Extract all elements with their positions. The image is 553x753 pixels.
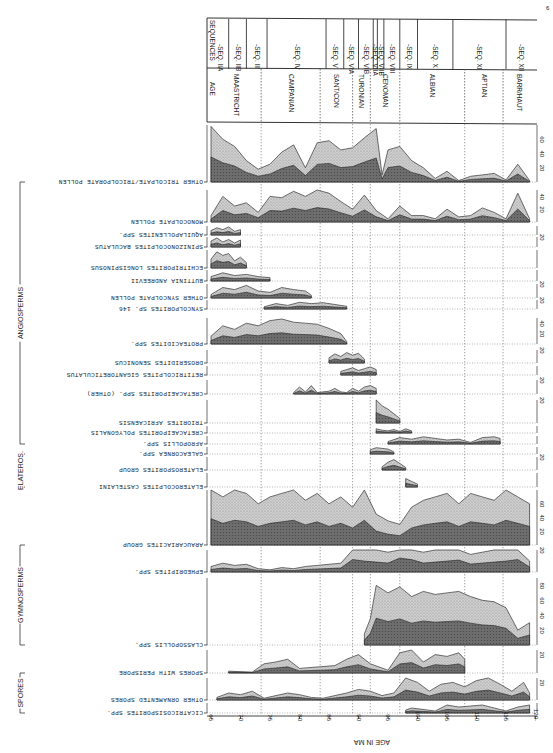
taxon-row <box>207 226 537 235</box>
taxon-label: CRETACAEIPORITES POLYGONALIS <box>91 429 203 436</box>
svg-text:40: 40 <box>539 193 545 200</box>
taxon-label: AFROPOLLIS SPP. <box>143 440 203 447</box>
svg-text:65: 65 <box>208 714 214 721</box>
taxon-row <box>207 447 537 454</box>
sequence-label: -SEQ. V <box>331 44 339 69</box>
taxon-label: CLASSOPOLLIS SPP. <box>135 641 203 648</box>
taxon-row: 2040 <box>207 318 545 344</box>
taxon-label: DROSERIDITES SENONICUS <box>115 359 203 366</box>
svg-text:80: 80 <box>297 714 303 721</box>
taxon-label: RETITRICOLPITES GIGANTORETICULATUS <box>67 371 203 378</box>
age-axis: 65707580859095100105110115120-AGE IN MA <box>207 709 539 746</box>
taxon-row: 20 <box>207 377 545 394</box>
taxon-label: ARAUCARIACITES GROUP <box>123 541 203 548</box>
chart-header: SEQUENCESAGE-SEQ. IIA-SEQ. IIB-SEQ. III-… <box>207 18 537 124</box>
svg-text:75: 75 <box>267 714 273 721</box>
sequence-label: -SEQ. VIA <box>347 44 355 75</box>
svg-text:20: 20 <box>539 234 545 241</box>
age-header: AGE <box>209 82 216 96</box>
taxon-label: TRIORITES AFRICAENSIS <box>119 419 203 426</box>
svg-text:20: 20 <box>539 165 545 172</box>
taxon-row <box>207 703 537 713</box>
svg-text:40: 40 <box>539 612 545 619</box>
taxon-row: 204060 <box>207 125 545 182</box>
taxon-row: 20406080 <box>207 578 545 645</box>
svg-text:20: 20 <box>539 377 545 384</box>
sequence-label: -SEQ. IV <box>293 44 301 70</box>
svg-text:40: 40 <box>539 515 545 522</box>
taxon-row: 20 <box>207 650 545 673</box>
taxa-rows: 2040602040202020204020202020204060202040… <box>207 125 545 713</box>
taxon-row: 204060 <box>207 490 545 545</box>
group-label: SPORES <box>17 678 24 708</box>
taxon-label: AQUILAPOLLENITES SPP. <box>119 231 203 238</box>
svg-text:95: 95 <box>385 714 391 721</box>
svg-text:20: 20 <box>539 652 545 659</box>
taxon-label: OTHER ORNAMENTED SPORES <box>111 696 203 703</box>
svg-text:20: 20 <box>539 206 545 213</box>
taxon-label: BUTTINIA ANDREEVII <box>131 277 203 284</box>
svg-text:80: 80 <box>539 582 545 589</box>
svg-text:70: 70 <box>238 714 244 721</box>
taxon-label: SYNCOLPORITES SP. 146 <box>119 305 203 312</box>
taxon-label: MONOCOLPATE POLLEN <box>131 218 203 225</box>
taxon-row: 20 <box>207 678 545 700</box>
sequence-label: -SEQ. IIA <box>216 44 224 72</box>
taxon-row: 20 <box>207 454 545 470</box>
taxon-label: CRETACAEIPORITES SPP. (OTHER) <box>87 390 203 397</box>
svg-text:20: 20 <box>539 397 545 404</box>
taxon-label: CICATRICOSISPORITES SPP. <box>107 709 203 716</box>
taxon-row: 20 <box>207 347 545 363</box>
svg-text:40: 40 <box>539 320 545 327</box>
taxon-row <box>207 426 537 433</box>
x-axis-title: AGE IN MA <box>354 739 391 746</box>
stage-label: ALBIAN <box>429 74 436 97</box>
stage-label: APTIAN <box>481 74 488 98</box>
svg-text:60: 60 <box>539 501 545 508</box>
sequence-label: -SEQ. VIII <box>388 44 396 73</box>
taxon-label: PROTEACIDITES SPP. <box>131 340 203 347</box>
taxon-row: 20 <box>207 281 545 298</box>
svg-text:85: 85 <box>326 714 332 721</box>
svg-text:20: 20 <box>539 454 545 461</box>
sequence-label: -SEQ. IX <box>405 44 413 70</box>
stage-label: MAASTRICHT <box>233 74 240 116</box>
stage-label: SANT/CON <box>333 74 340 108</box>
svg-text:115: 115 <box>503 711 509 721</box>
taxa-labels: OTHER TRICOLPATE/TRICOLPORATE POLLENMONO… <box>59 178 207 716</box>
group-label: GYMNOSPERMS <box>17 567 24 623</box>
taxon-row: 20 <box>207 297 545 309</box>
taxon-row: 20 <box>207 547 545 572</box>
group-brackets: ANGIOSPERMSELATEROS.GYMNOSPERMSSPORES <box>16 182 25 713</box>
svg-text:20: 20 <box>539 528 545 535</box>
svg-text:20: 20 <box>539 297 545 304</box>
svg-text:20: 20 <box>539 547 545 554</box>
taxon-row: 2040 <box>207 190 545 222</box>
svg-text:20: 20 <box>539 331 545 338</box>
group-label: ANGIOSPERMS <box>17 287 24 339</box>
corner-mark: 6 <box>546 5 550 11</box>
svg-text:120-: 120- <box>533 709 539 721</box>
taxon-label: SPORES WITH PERISPORE <box>119 669 203 676</box>
svg-text:20: 20 <box>539 627 545 634</box>
taxon-row <box>207 473 537 487</box>
svg-text:60: 60 <box>539 136 545 143</box>
sequence-label: -SEQ. XI <box>475 44 483 70</box>
svg-text:20: 20 <box>539 281 545 288</box>
taxon-label: OTHER SYNCOLPATE POLLEN <box>111 294 203 301</box>
stage-label: TURONIAN <box>358 74 365 108</box>
svg-text:20: 20 <box>539 347 545 354</box>
taxon-row <box>207 436 537 444</box>
sequence-label: -SEQ. III <box>253 44 261 69</box>
group-label: ELATEROS. <box>17 451 24 490</box>
taxon-row <box>207 366 537 375</box>
taxon-label: GALEACORNEA SPP. <box>139 450 203 457</box>
taxon-label: OTHER TRICOLPATE/TRICOLPORATE POLLEN <box>59 178 203 185</box>
taxon-label: ECHITRIPORITES LONGISPINOSUS <box>91 264 203 271</box>
taxon-row: 20 <box>207 397 545 423</box>
sequence-label: -SEQ. IIB <box>234 44 242 71</box>
svg-text:90: 90 <box>356 714 362 721</box>
svg-text:40: 40 <box>539 151 545 158</box>
range-chart-figure: SEQUENCESAGE-SEQ. IIA-SEQ. IIB-SEQ. III-… <box>0 0 553 753</box>
taxon-row: 20 <box>207 234 545 247</box>
